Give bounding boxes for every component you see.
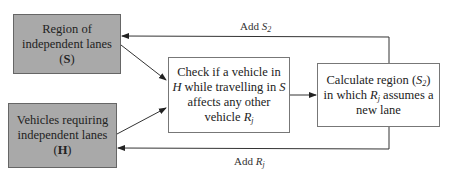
edge-label-add-s2: Add S2 (240, 20, 271, 32)
node-calc-line-2: in which Rj assumes a (324, 88, 434, 103)
node-calc-line-3: new lane (356, 103, 401, 118)
node-h-line-2: independent lanes (18, 128, 108, 143)
edge-h-to-check (117, 108, 166, 134)
node-vehicles-requiring-lanes: Vehicles requiring independent lanes (H) (8, 103, 117, 168)
node-check-line-1: Check if a vehicle in (177, 65, 280, 80)
node-h-line-1: Vehicles requiring (17, 113, 108, 128)
node-check-line-3: affects any other (187, 95, 270, 110)
node-calculate-region: Calculate region (S2) in which Rj assume… (317, 63, 440, 127)
node-s-symbol: (S) (59, 52, 74, 67)
node-s-line-2: independent lanes (22, 37, 112, 52)
node-check-line-4: vehicle Rj (204, 110, 253, 125)
node-h-symbol: (H) (53, 143, 71, 158)
node-calc-line-1: Calculate region (S2) (327, 73, 431, 88)
node-check-line-2: H while travelling in S (172, 80, 285, 95)
edge-label-add-rj: Add Rj (234, 155, 265, 167)
node-region-independent-lanes: Region of independent lanes (S) (13, 14, 121, 74)
node-check-vehicle: Check if a vehicle in H while travelling… (168, 57, 290, 133)
node-s-line-1: Region of (42, 22, 92, 37)
edge-s-to-check (121, 45, 166, 80)
